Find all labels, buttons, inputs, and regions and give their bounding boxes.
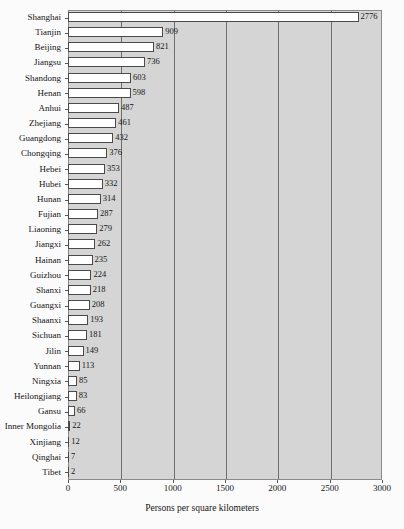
bar-value-label: 208: [92, 297, 105, 311]
category-label: Inner Mongolia: [0, 419, 61, 434]
bar-row: 224: [68, 268, 382, 283]
category-label: Shandong: [0, 71, 61, 86]
bar-value-label: 909: [165, 24, 178, 38]
value-axis: 050010001500200025003000: [68, 480, 382, 500]
bar-row: 262: [68, 237, 382, 252]
bar-row: 376: [68, 146, 382, 161]
bar-row: 218: [68, 283, 382, 298]
bar: [68, 239, 95, 249]
bar: [68, 57, 145, 67]
bar-value-label: 66: [77, 403, 86, 417]
bar-value-label: 113: [82, 358, 94, 372]
bar-value-label: 12: [71, 434, 80, 448]
bar-value-label: 487: [121, 100, 134, 114]
bar-value-label: 22: [72, 418, 81, 432]
bar-value-label: 224: [93, 267, 106, 281]
bar: [68, 194, 101, 204]
bar-row: 603: [68, 71, 382, 86]
bar-row: 66: [68, 404, 382, 419]
bar-value-label: 149: [86, 343, 99, 357]
bar-value-label: 279: [99, 221, 112, 235]
category-axis: ShanghaiTianjinBeijingJiangsuShandongHen…: [0, 10, 65, 480]
bar-row: 314: [68, 192, 382, 207]
bar: [68, 285, 91, 295]
x-axis-title: Persons per square kilometers: [0, 503, 404, 513]
category-label: Yunnan: [0, 359, 61, 374]
bar: [68, 164, 105, 174]
bar-row: 432: [68, 131, 382, 146]
category-label: Hainan: [0, 253, 61, 268]
bar-series: 2776909821736603598487461432376353332314…: [68, 10, 382, 480]
category-label: Heilongjiang: [0, 389, 61, 404]
category-label: Fujian: [0, 207, 61, 222]
bar-row: 598: [68, 86, 382, 101]
category-label: Hubei: [0, 177, 61, 192]
category-label: Beijing: [0, 40, 61, 55]
bar-row: 22: [68, 419, 382, 434]
category-label: Jiangxi: [0, 237, 61, 252]
category-label: Qinghai: [0, 450, 61, 465]
category-label: Anhui: [0, 101, 61, 116]
bar-row: 821: [68, 40, 382, 55]
bar-value-label: 85: [79, 373, 88, 387]
bar-row: 235: [68, 253, 382, 268]
bar: [68, 361, 80, 371]
bar-row: 193: [68, 313, 382, 328]
category-label: Sichuan: [0, 328, 61, 343]
x-tick-label: 1000: [164, 483, 182, 493]
category-label: Liaoning: [0, 222, 61, 237]
category-label: Shanghai: [0, 10, 61, 25]
bar: [68, 452, 69, 462]
category-label: Jilin: [0, 344, 61, 359]
category-label: Shanxi: [0, 283, 61, 298]
bar-value-label: 2: [71, 464, 75, 478]
bar-row: 113: [68, 359, 382, 374]
bar-row: 7: [68, 450, 382, 465]
bar: [68, 133, 113, 143]
bar: [68, 421, 70, 431]
bar-row: 83: [68, 389, 382, 404]
bar: [68, 315, 88, 325]
bar-value-label: 193: [90, 312, 103, 326]
category-label: Shaanxi: [0, 313, 61, 328]
bar-value-label: 314: [103, 191, 116, 205]
bar-value-label: 83: [79, 388, 88, 402]
bar-value-label: 7: [71, 449, 75, 463]
bar: [68, 88, 131, 98]
bar-value-label: 181: [89, 327, 102, 341]
bar: [68, 406, 75, 416]
category-label: Ningxia: [0, 374, 61, 389]
category-label: Hunan: [0, 192, 61, 207]
category-label: Gansu: [0, 404, 61, 419]
bar-row: 332: [68, 177, 382, 192]
bar-row: 461: [68, 116, 382, 131]
bar-row: 85: [68, 374, 382, 389]
bar-value-label: 603: [133, 70, 146, 84]
bar: [68, 118, 116, 128]
bar-row: 279: [68, 222, 382, 237]
bar-value-label: 736: [147, 54, 160, 68]
category-label: Henan: [0, 86, 61, 101]
bar: [68, 255, 93, 265]
bar-value-label: 218: [93, 282, 106, 296]
bar-value-label: 598: [133, 85, 146, 99]
x-tick-label: 2000: [268, 483, 286, 493]
bar: [68, 270, 91, 280]
category-label: Guangdong: [0, 131, 61, 146]
bar: [68, 42, 154, 52]
bar-value-label: 461: [118, 115, 131, 129]
bar-chart: ShanghaiTianjinBeijingJiangsuShandongHen…: [0, 0, 404, 529]
bar: [68, 103, 119, 113]
bar: [68, 467, 69, 477]
bar: [68, 148, 107, 158]
category-label: Zhejiang: [0, 116, 61, 131]
bar-value-label: 2776: [361, 9, 378, 23]
bar: [68, 12, 359, 22]
bar-row: 181: [68, 328, 382, 343]
bar: [68, 179, 103, 189]
bar: [68, 437, 69, 447]
x-tick-label: 0: [66, 483, 71, 493]
bar-row: 487: [68, 101, 382, 116]
bar-row: 2776: [68, 10, 382, 25]
bar: [68, 27, 163, 37]
